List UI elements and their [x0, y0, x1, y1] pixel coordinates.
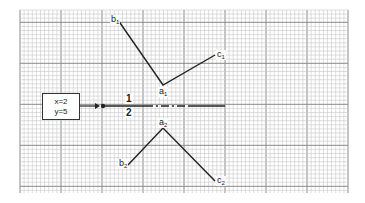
branch-label-2: 2	[125, 108, 133, 118]
label-a1: a1	[158, 87, 168, 97]
y-value: y=5	[54, 107, 67, 117]
label-c2: c2	[216, 176, 226, 186]
branch-label-1: 1	[125, 94, 133, 104]
label-c1: c1	[216, 50, 226, 60]
input-values-box: x=2 y=5	[42, 93, 80, 120]
label-b1: b1	[110, 15, 120, 25]
label-b2: b2	[118, 159, 128, 169]
label-a2: a2	[158, 118, 168, 128]
x-value: x=2	[54, 97, 67, 107]
